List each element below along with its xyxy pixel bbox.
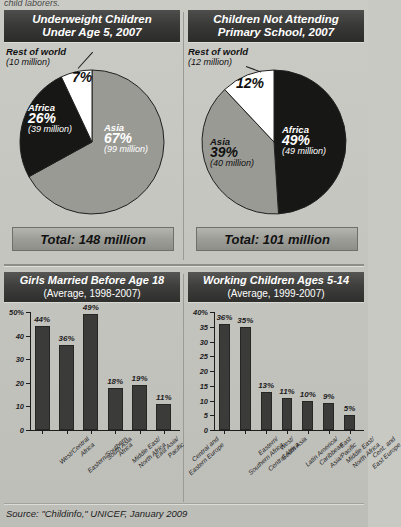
y-tick-label: 40% <box>184 308 208 317</box>
pie-label-rest-of-world-pct: 7% <box>72 72 92 83</box>
pie-label-rest-of-world-name: Rest of world <box>188 46 248 57</box>
pie-label-rest-of-world-pct-pct: 7% <box>72 72 92 83</box>
y-tick <box>26 406 30 407</box>
x-tick <box>350 431 351 434</box>
panel-title-line2: (Average, 1998-2007) <box>43 287 140 300</box>
bar <box>261 392 272 430</box>
x-tick <box>245 431 246 434</box>
x-tick <box>266 431 267 434</box>
x-tick <box>42 431 43 434</box>
y-tick-label: 30 <box>0 355 24 364</box>
pie-label-asia-pct: 67% <box>104 133 148 144</box>
y-tick-label: 0 <box>0 426 24 435</box>
bar-value-label: 18% <box>107 377 123 386</box>
x-tick <box>91 431 92 434</box>
total-badge-not-attending: Total: 101 million <box>196 227 358 251</box>
bar-value-label: 49% <box>83 303 99 312</box>
pie-chart-underweight-children: Asia67%(99 million)Africa26%(39 million)… <box>0 44 184 224</box>
bar <box>219 324 230 430</box>
panel-title-line2: (Average, 1999-2007) <box>227 287 324 300</box>
panel-title-line1: Underweight Children <box>32 13 151 26</box>
y-tick <box>210 401 214 402</box>
bar <box>323 403 334 430</box>
pie-chart-children-not-attending: Africa49%(49 million)Asia39%(40 million)… <box>184 44 368 224</box>
panel-title-line2: Under Age 5, 2007 <box>42 26 141 39</box>
pie-label-africa: Africa26%(39 million) <box>28 102 72 135</box>
pie-label-asia-pct: 39% <box>210 147 254 158</box>
divider-horizontal <box>4 264 364 266</box>
y-tick-label: 20 <box>184 367 208 376</box>
pie-label-asia-value: (99 million) <box>104 144 148 155</box>
total-badge-underweight: Total: 148 million <box>12 227 174 251</box>
bar <box>344 415 355 430</box>
y-tick <box>210 342 214 343</box>
pie-label-rest-of-world-pct: 12% <box>236 78 264 89</box>
bar <box>108 388 123 430</box>
x-tick <box>329 431 330 434</box>
pie-label-asia: Asia39%(40 million) <box>210 136 254 169</box>
x-axis <box>30 430 180 431</box>
y-tick-label: 10 <box>184 396 208 405</box>
y-tick <box>210 327 214 328</box>
x-tick <box>224 431 225 434</box>
y-tick <box>26 312 30 313</box>
panel-title-girls-married: Girls Married Before Age 18 (Average, 19… <box>4 272 180 302</box>
bar-value-label: 9% <box>323 392 335 401</box>
panel-title-line1: Working Children Ages 5-14 <box>203 274 349 287</box>
bar-value-label: 11% <box>279 387 294 396</box>
pie-label-africa-pct: 26% <box>28 113 72 124</box>
bar <box>35 326 50 430</box>
source-note: Source: "Childinfo," UNICEF, January 200… <box>6 508 187 519</box>
bar <box>59 345 74 430</box>
x-tick <box>164 431 165 434</box>
bar <box>282 398 293 430</box>
y-tick-label: 30 <box>184 337 208 346</box>
top-cutoff-caption: child laborers. <box>4 0 364 9</box>
y-tick-label: 5 <box>184 411 208 420</box>
bar-value-label: 44% <box>34 315 50 324</box>
y-tick <box>26 383 30 384</box>
y-tick-label: 0 <box>184 426 208 435</box>
pie-label-rest-of-world: Rest of world(12 million) <box>188 46 248 68</box>
bar-value-label: 5% <box>344 404 356 413</box>
y-tick-label: 20 <box>0 378 24 387</box>
bar-value-label: 13% <box>258 381 274 390</box>
y-tick <box>210 430 214 431</box>
y-tick-label: 25 <box>184 352 208 361</box>
pie-label-africa: Africa49%(49 million) <box>282 124 326 157</box>
bar-value-label: 36% <box>216 313 232 322</box>
x-tick <box>67 431 68 434</box>
y-axis <box>214 312 215 430</box>
y-tick <box>26 336 30 337</box>
pie-label-asia: Asia67%(99 million) <box>104 122 148 155</box>
y-tick-label: 10 <box>0 402 24 411</box>
y-tick-label: 35 <box>184 322 208 331</box>
x-tick <box>140 431 141 434</box>
pie-label-rest-of-world-pct-pct: 12% <box>236 78 264 89</box>
bar-chart-working-children: 40%3530252015105036%Eastern/Southern Afr… <box>184 304 368 516</box>
y-tick <box>210 371 214 372</box>
panel-title-line1: Girls Married Before Age 18 <box>20 274 164 287</box>
pie-label-rest-of-world-value: (12 million) <box>188 57 248 68</box>
x-tick <box>287 431 288 434</box>
bar <box>156 404 171 430</box>
pie-label-africa-pct: 49% <box>282 135 326 146</box>
pie-label-africa-value: (39 million) <box>28 124 72 135</box>
panel-title-line1: Children Not Attending <box>213 13 338 26</box>
y-axis <box>30 312 31 430</box>
panel-title-working-children: Working Children Ages 5-14 (Average, 199… <box>188 272 364 302</box>
panel-title-children-not-attending-school: Children Not Attending Primary School, 2… <box>188 10 364 42</box>
bar-value-label: 36% <box>58 334 74 343</box>
x-axis <box>214 430 364 431</box>
y-tick-label: 15 <box>184 381 208 390</box>
x-tick <box>308 431 309 434</box>
pie-label-rest-of-world-value: (10 million) <box>6 57 66 68</box>
y-tick <box>210 386 214 387</box>
bar <box>132 385 147 430</box>
pie-label-rest-of-world: Rest of world(10 million) <box>6 46 66 68</box>
y-tick <box>26 430 30 431</box>
bar-value-label: 10% <box>300 390 316 399</box>
pie-label-asia-value: (40 million) <box>210 158 254 169</box>
y-tick <box>210 356 214 357</box>
pie-label-rest-of-world-name: Rest of world <box>6 46 66 57</box>
